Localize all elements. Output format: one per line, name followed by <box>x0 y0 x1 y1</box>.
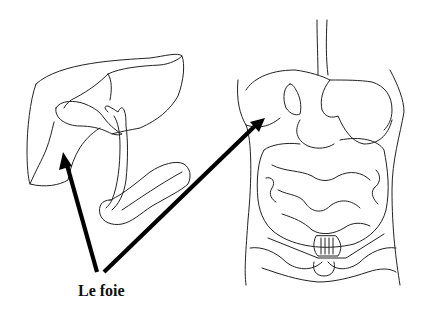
liver-label: Le foie <box>78 282 125 300</box>
arrow-to-isolated-liver <box>59 152 97 272</box>
bile-duct-illustration <box>105 106 128 210</box>
torso-illustration <box>237 20 404 285</box>
arrow-to-torso-liver <box>104 118 265 272</box>
pancreas-illustration <box>99 162 190 224</box>
gallbladder-illustration <box>56 101 122 134</box>
digestive-diagram <box>0 0 428 309</box>
arrowhead-icon <box>59 152 72 170</box>
